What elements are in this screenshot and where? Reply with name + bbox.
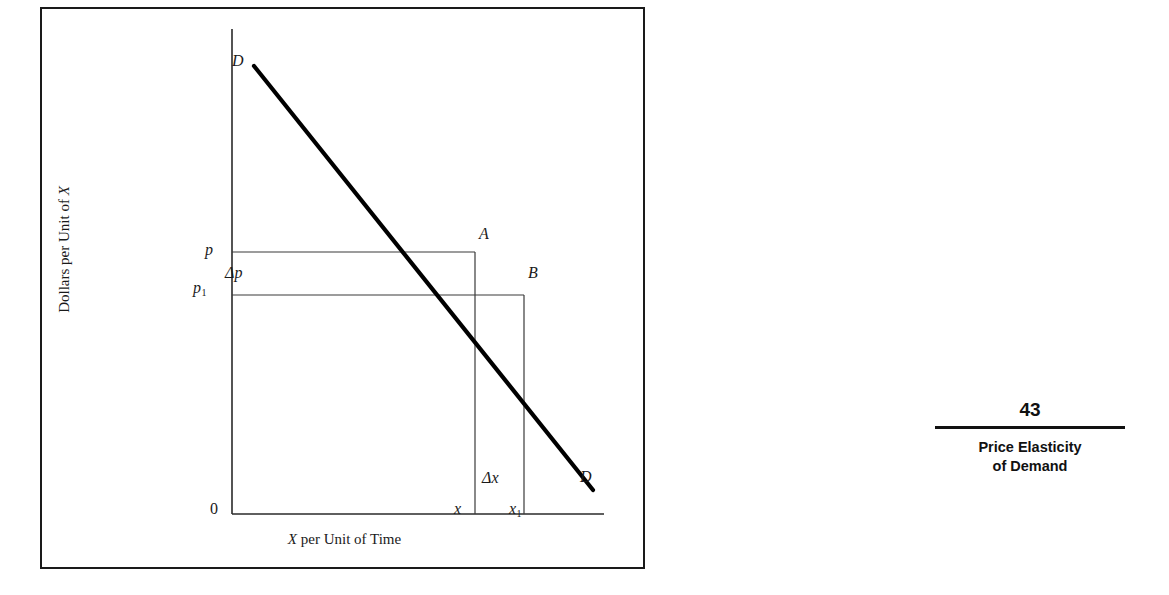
running-head-title-line-1: Price Elasticity: [935, 438, 1125, 458]
point-b-label: B: [528, 265, 538, 281]
origin-label: 0: [210, 501, 218, 517]
running-head-title-line-2: of Demand: [935, 457, 1125, 477]
demand-curve-label-bottom: D: [580, 469, 592, 485]
point-a-label: A: [479, 226, 489, 242]
y-tick-label-p: p: [205, 242, 213, 258]
x-axis-title: X per Unit of Time: [42, 531, 647, 548]
demand-curve-label-top: D: [232, 53, 244, 69]
delta-p-label: Δp: [225, 265, 242, 281]
x-axis-title-variable: X: [288, 531, 297, 547]
delta-x-label: Δx: [482, 470, 499, 486]
page-number: 43: [935, 400, 1125, 424]
y-axis-title: Dollars per Unit of X: [56, 150, 73, 350]
y-tick-label-p1-subscript: 1: [201, 287, 207, 298]
plot-area: D D A B p p1 Δp Δx 0 x x1 Dollars per Un…: [42, 9, 647, 571]
x-tick-label-x: x: [454, 501, 461, 517]
demand-curve-line: [254, 66, 593, 490]
y-axis-title-variable: X: [56, 186, 72, 195]
y-axis-title-prefix: Dollars per Unit of: [56, 195, 72, 312]
header-rule-divider: [935, 426, 1125, 429]
running-head-title: Price Elasticity of Demand: [935, 438, 1125, 477]
y-tick-label-p1: p1: [193, 280, 207, 296]
demand-curve-plot: [42, 9, 647, 571]
figure-frame: D D A B p p1 Δp Δx 0 x x1 Dollars per Un…: [40, 7, 645, 569]
x-tick-label-x1: x1: [509, 501, 522, 517]
x-axis-title-suffix: per Unit of Time: [297, 531, 401, 547]
y-tick-label-p1-base: p: [193, 279, 201, 296]
x-tick-label-x1-subscript: 1: [516, 508, 522, 519]
running-head: 43 Price Elasticity of Demand: [935, 400, 1125, 477]
